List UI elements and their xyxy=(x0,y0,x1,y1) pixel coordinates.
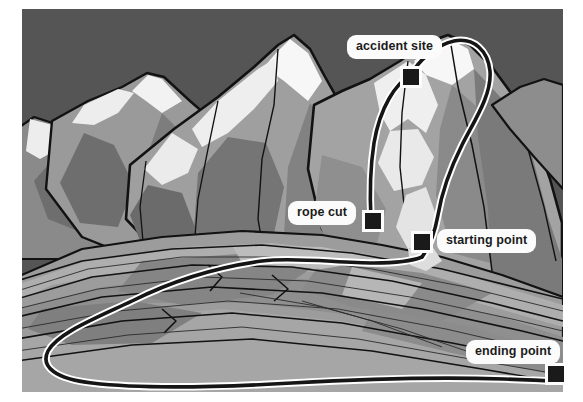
mountain-scene xyxy=(22,9,563,392)
label-accident-site: accident site xyxy=(347,35,442,59)
label-rope-cut: rope cut xyxy=(288,201,356,225)
label-starting-point: starting point xyxy=(437,229,536,253)
marker-rope-cut[interactable] xyxy=(362,210,384,232)
marker-accident-site[interactable] xyxy=(400,66,422,88)
marker-starting-point[interactable] xyxy=(411,231,433,253)
mountain-scene-svg xyxy=(22,9,563,392)
marker-ending-point[interactable] xyxy=(545,363,567,385)
map-illustration-stage: accident site rope cut starting point en… xyxy=(0,0,583,402)
label-ending-point: ending point xyxy=(466,340,560,364)
